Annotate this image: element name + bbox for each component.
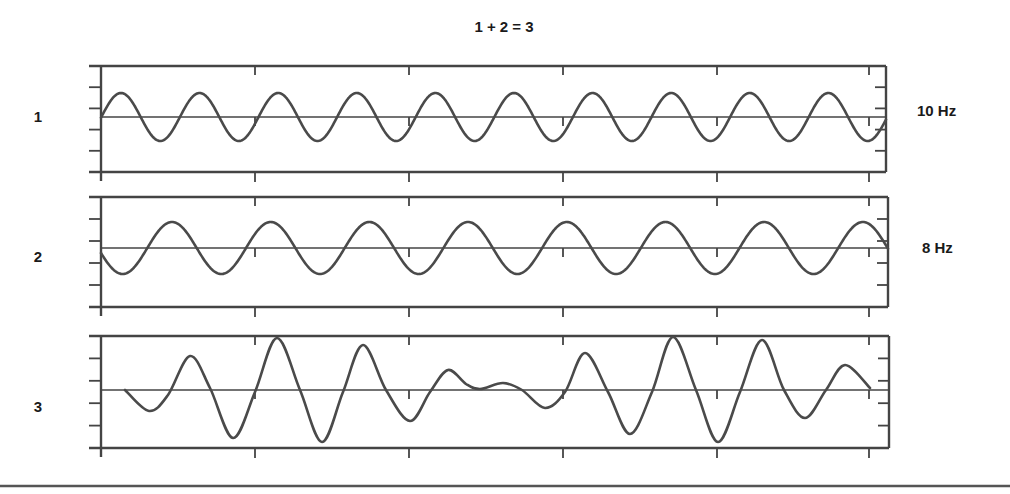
panel-3: 3 bbox=[34, 336, 889, 458]
panel-label: 1 bbox=[34, 108, 42, 125]
panel-label: 3 bbox=[34, 398, 42, 415]
frequency-label: 8 Hz bbox=[922, 239, 953, 256]
plot-frame bbox=[89, 66, 886, 182]
frequency-label: 10 Hz bbox=[917, 102, 956, 119]
figure: 1 + 2 = 3 1 10 Hz 2 8 Hz 3 bbox=[0, 0, 1010, 494]
panel-1: 1 10 Hz bbox=[34, 66, 956, 182]
panel-2: 2 8 Hz bbox=[34, 197, 953, 317]
plot-frame bbox=[89, 336, 889, 458]
figure-title: 1 + 2 = 3 bbox=[474, 18, 533, 35]
plot-frame bbox=[89, 197, 888, 317]
waveform-line bbox=[101, 93, 886, 141]
panel-label: 2 bbox=[34, 248, 42, 265]
